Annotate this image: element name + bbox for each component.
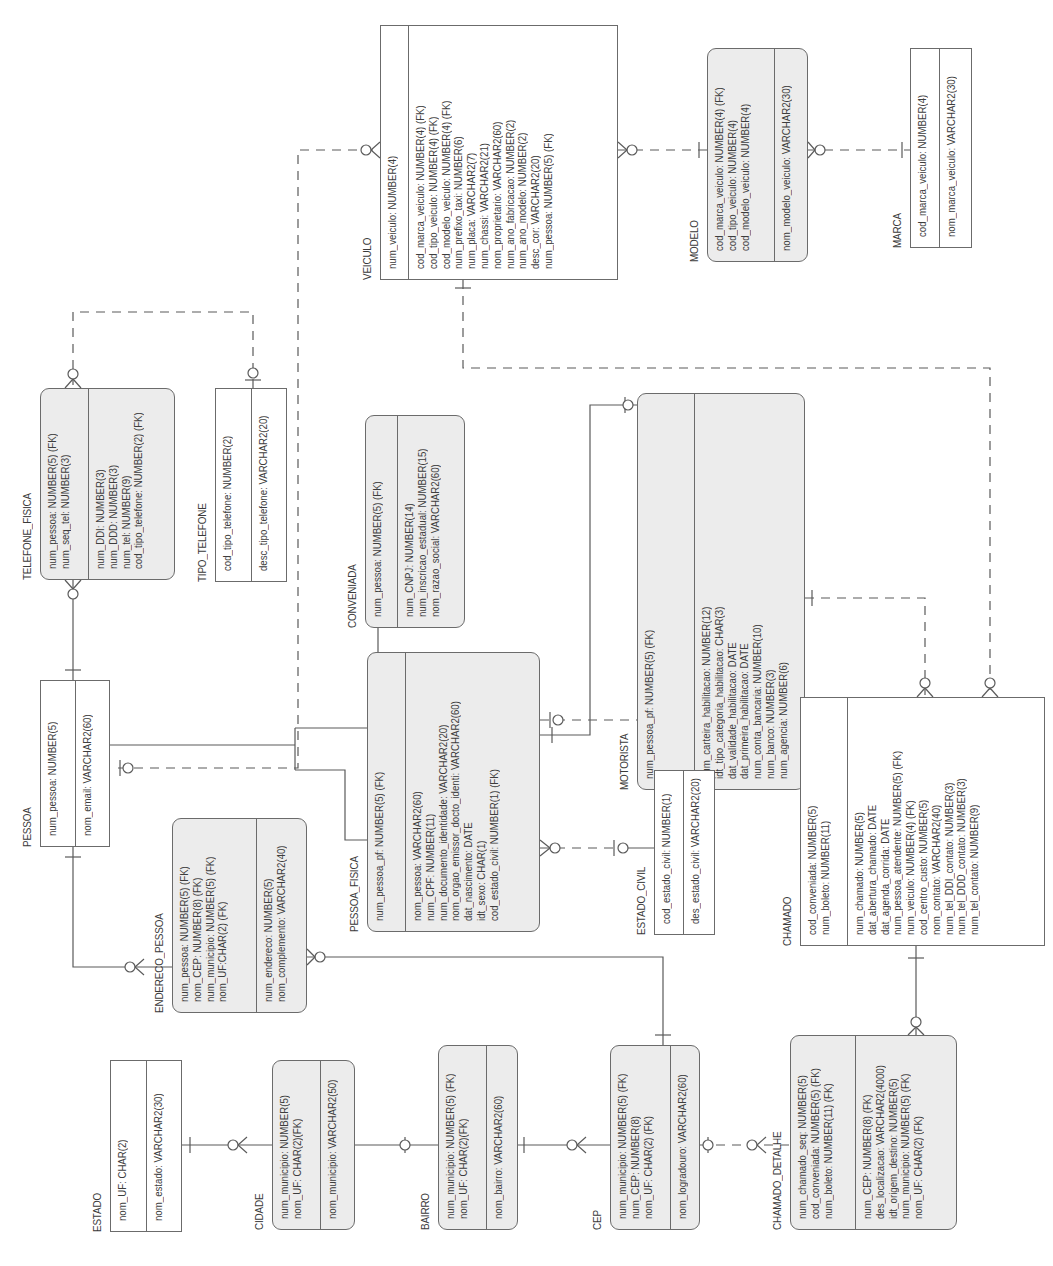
pk-attribute: num_veiculo: NUMBER(4) xyxy=(386,72,399,269)
attribute: cod_estado_civil: NUMBER(1) (FK) xyxy=(488,703,501,921)
attribute: num_CPF: NUMBER(11) xyxy=(424,703,437,921)
entity-telefone-fisica[interactable]: TELEFONE_FISICA num_pessoa: NUMBER(5) (F… xyxy=(40,388,175,580)
attribute: num_chamado: NUMBER(5) xyxy=(853,743,866,935)
entity-estado[interactable]: ESTADO nom_UF: CHAR(2) nom_estado: VARCH… xyxy=(110,1060,182,1232)
attribute: nom_marca_veiculo: VARCHAR2(30) xyxy=(945,86,958,237)
entity-chamado-detalhe[interactable]: CHAMADO_DETALHE num_chamado_seq: NUMBER(… xyxy=(790,1035,957,1230)
attribute: nom_estado: VARCHAR2(30) xyxy=(152,1093,165,1221)
attribute: num_conta_bancaria: NUMBER(10) xyxy=(751,462,764,779)
pk-attribute: nom_UF: CHAR(2)(FK) xyxy=(457,1080,470,1219)
pk-attribute: nom_UF:CHAR(2) (FK) xyxy=(216,855,229,1002)
pk-attribute: num_chamado_seq: NUMBER(5) xyxy=(796,1072,809,1219)
attribute: num_placa: VARCHAR2(7) xyxy=(465,72,478,269)
attribute: desc_tipo_telefone: VARCHAR2(20) xyxy=(257,425,270,571)
rel-tipotelefone-telefonefisica xyxy=(65,312,261,388)
attribute: desc_cor: VARCHAR2(20) xyxy=(529,72,542,269)
attribute: cod_tipo_veiculo: NUMBER(4) (FK) xyxy=(427,72,440,269)
attribute: num_CEP: NUMBER(8) (FK) xyxy=(861,1072,874,1219)
pk-attribute: cod_conveniada: NUMBER(5) (FK) xyxy=(809,1072,822,1219)
attribute: nom_complemento: VARCHAR2(40) xyxy=(275,855,288,1002)
pk-attribute: cod_marca_veiculo: NUMBER(4) xyxy=(916,86,929,237)
rel-motorista-chamado xyxy=(805,590,933,697)
attribute: nom_email: VARCHAR2(60) xyxy=(81,713,94,836)
entity-title: CIDADE xyxy=(253,1194,265,1230)
attribute: num_agencia: NUMBER(6) xyxy=(777,462,790,779)
entity-veiculo[interactable]: VEICULO num_veiculo: NUMBER(4) cod_marca… xyxy=(380,25,618,280)
rel-bairro-cep xyxy=(518,1137,610,1153)
entity-cidade[interactable]: CIDADE num_municipio: NUMBER(5) nom_UF: … xyxy=(272,1060,355,1230)
attribute: dat_validade_habilitacao: DATE xyxy=(726,462,739,779)
attribute: cod_centro_custo: NUMBER(5) xyxy=(917,743,930,935)
attribute: nom_municipio: VARCHAR2(50) xyxy=(326,1093,339,1219)
entity-pessoa[interactable]: PESSOA num_pessoa: NUMBER(5) nom_email: … xyxy=(40,680,110,847)
er-diagram-canvas: VEICULO num_veiculo: NUMBER(4) cod_marca… xyxy=(0,0,1053,1266)
entity-title: TELEFONE_FISICA xyxy=(21,493,33,580)
attribute: idt_tipo_categoria_habilitacao: CHAR(3) xyxy=(713,462,726,779)
entity-cep[interactable]: CEP num_municipio: NUMBER(5) (FK) num_CE… xyxy=(610,1045,700,1230)
attribute: cod_modelo_veiculo: NUMBER(4) (FK) xyxy=(440,72,453,269)
entity-marca[interactable]: MARCA cod_marca_veiculo: NUMBER(4) nom_m… xyxy=(910,48,972,248)
entity-endereco-pessoa[interactable]: ENDERECO_PESSOA num_pessoa: NUMBER(5) (F… xyxy=(172,818,307,1013)
pk-attribute: num_pessoa_pf: NUMBER(5) (FK) xyxy=(643,462,656,779)
attribute: nom_proprietario: VARCHAR2(60) xyxy=(491,72,504,269)
pk-attribute: num_seq_tel: NUMBER(3) xyxy=(59,425,72,569)
attribute: num_ano_fabricacao: NUMBER(2) xyxy=(504,72,517,269)
attribute: nom_logradouro: VARCHAR2(60) xyxy=(676,1080,689,1219)
attribute: num_veiculo: NUMBER(4) (FK) xyxy=(904,743,917,935)
pk-attribute: num_municipio: NUMBER(5) xyxy=(278,1093,291,1219)
pk-attribute: nom_UF: CHAR(2) (FK) xyxy=(642,1080,655,1219)
attribute: dat_agenda_corrida: DATE xyxy=(879,743,892,935)
entity-motorista[interactable]: MOTORISTA num_pessoa_pf: NUMBER(5) (FK) … xyxy=(637,393,805,790)
rel-cidade-bairro xyxy=(355,1137,438,1153)
attribute: num_banco: NUMBER(3) xyxy=(764,462,777,779)
attribute: num_carteira_habilitacao: NUMBER(12) xyxy=(700,462,713,779)
attribute: num_DDD: NUMBER(3) xyxy=(107,425,120,569)
entity-pessoa-fisica[interactable]: PESSOA_FISICA num_pessoa_pf: NUMBER(5) (… xyxy=(367,652,540,932)
attribute: nom_UF: CHAR(2) (FK) xyxy=(912,1072,925,1219)
attribute: nom_modelo_veiculo: VARCHAR2(30) xyxy=(780,88,793,251)
rel-pessoafisica-motorista xyxy=(540,397,637,743)
attribute: nom_bairro: VARCHAR2(60) xyxy=(492,1080,505,1219)
pk-attribute: num_pessoa_pf: NUMBER(5) (FK) xyxy=(373,703,386,921)
entity-bairro[interactable]: BAIRRO num_municipio: NUMBER(5) (FK) nom… xyxy=(438,1045,518,1230)
entity-title: MODELO xyxy=(688,220,700,262)
rel-pessoa-telefonefisica xyxy=(65,580,81,680)
rel-estado-cidade xyxy=(182,1137,272,1153)
pk-attribute: num_municipio: NUMBER(5) (FK) xyxy=(444,1080,457,1219)
attribute: num_documento_identidade: VARCHAR2(20) xyxy=(437,703,450,921)
pk-attribute: num_boleto: NUMBER(11) (FK) xyxy=(822,1072,835,1219)
attribute: num_prefixo_taxi: NUMBER(6) xyxy=(452,72,465,269)
pk-attribute: cod_conveniada: NUMBER(5) xyxy=(806,743,819,935)
entity-title: MOTORISTA xyxy=(618,734,630,790)
pk-attribute: num_municipio: NUMBER(5) (FK) xyxy=(204,855,217,1002)
er-diagram-frame: VEICULO num_veiculo: NUMBER(4) cod_marca… xyxy=(0,0,1053,1266)
pk-attribute: nom_UF: CHAR(2) xyxy=(116,1093,129,1221)
attribute: num_endereco: NUMBER(5) xyxy=(262,855,275,1002)
pk-attribute: num_municipio: NUMBER(5) (FK) xyxy=(616,1080,629,1219)
entity-tipo-telefone[interactable]: TIPO_TELEFONE cod_tipo_telefone: NUMBER(… xyxy=(215,388,287,582)
pk-attribute: nom_CEP: NUMBER(8) (FK) xyxy=(191,855,204,1002)
attribute: num_pessoa_atendente: NUMBER(5) (FK) xyxy=(891,743,904,935)
pk-attribute: num_pessoa: NUMBER(5) (FK) xyxy=(178,855,191,1002)
rel-chamado-chamadodetalhe xyxy=(908,946,924,1035)
entity-title: CONVENIADA xyxy=(346,564,358,628)
entity-modelo[interactable]: MODELO cod_marca_veiculo: NUMBER(4) (FK)… xyxy=(707,48,808,262)
entity-title: ESTADO_CIVIL xyxy=(635,867,647,935)
entity-title: CHAMADO xyxy=(781,897,793,946)
attribute: dat_abertura_chamado: DATE xyxy=(866,743,879,935)
entity-chamado[interactable]: CHAMADO cod_conveniada: NUMBER(5) num_bo… xyxy=(800,697,1045,946)
pk-attribute: cod_marca_veiculo: NUMBER(4) (FK) xyxy=(713,88,726,251)
rel-estadocivil-pessoafisica xyxy=(540,840,654,856)
entity-title: ENDERECO_PESSOA xyxy=(153,913,165,1013)
attribute: nom_pessoa: VARCHAR2(60) xyxy=(411,703,424,921)
attribute: num_pessoa: NUMBER(5) (FK) xyxy=(542,72,555,269)
attribute: num_CNPJ: NUMBER(14) xyxy=(403,455,416,617)
attribute: des_estado_civil: VARCHAR2(20) xyxy=(689,802,702,924)
entity-conveniada[interactable]: CONVENIADA num_pessoa: NUMBER(5) (FK) nu… xyxy=(365,415,465,628)
rel-pessoa-subtypes xyxy=(110,628,378,840)
entity-estado-civil[interactable]: ESTADO_CIVIL cod_estado_civil: NUMBER(1)… xyxy=(654,770,715,935)
entity-title: ESTADO xyxy=(91,1193,103,1232)
entity-title: PESSOA xyxy=(21,807,33,847)
attribute: nom_orgao_emissor_docto_identi: VARCHAR2… xyxy=(449,703,462,921)
pk-attribute: cod_estado_civil: NUMBER(1) xyxy=(660,802,673,924)
